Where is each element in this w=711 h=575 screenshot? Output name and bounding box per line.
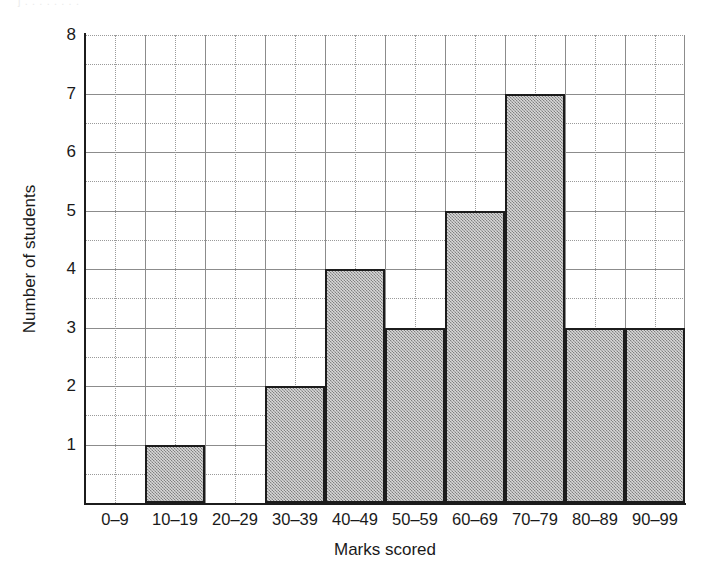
gridline-vertical-minor	[235, 35, 236, 503]
scan-artifact-text: j . . . . . . . .	[18, 0, 80, 7]
gridline-vertical-minor	[115, 35, 116, 503]
y-tick-label: 2	[52, 377, 76, 394]
y-tick-label: 1	[52, 436, 76, 453]
y-axis-title: Number of students	[20, 159, 40, 359]
y-tick-label: 5	[52, 202, 76, 219]
plot-area	[85, 35, 685, 503]
histogram-bar	[625, 328, 685, 504]
histogram-figure: j . . . . . . . . 12345678 0–910–1920–29…	[0, 0, 711, 575]
gridline-vertical-major	[205, 35, 206, 503]
y-tick-label: 7	[52, 85, 76, 102]
y-tick-label: 4	[52, 260, 76, 277]
x-axis-tick-labels: 0–910–1920–2930–3940–4950–5960–6970–7980…	[85, 510, 685, 532]
y-tick-label: 3	[52, 319, 76, 336]
histogram-bar	[385, 328, 445, 504]
histogram-bar	[325, 269, 385, 503]
histogram-bar	[505, 94, 565, 504]
y-tick-label: 8	[52, 26, 76, 43]
histogram-bar	[565, 328, 625, 504]
histogram-bar	[145, 445, 205, 504]
histogram-bar	[265, 386, 325, 503]
y-axis-tick-labels: 12345678	[46, 35, 76, 503]
histogram-bar	[445, 211, 505, 504]
y-axis-spine	[84, 33, 86, 505]
x-axis-title: Marks scored	[85, 540, 685, 560]
gridline-vertical-minor	[175, 35, 176, 503]
gridline-vertical-major	[145, 35, 146, 503]
y-tick-label: 6	[52, 143, 76, 160]
x-tick-label: 90–99	[619, 510, 691, 528]
x-axis-spine	[84, 503, 686, 505]
